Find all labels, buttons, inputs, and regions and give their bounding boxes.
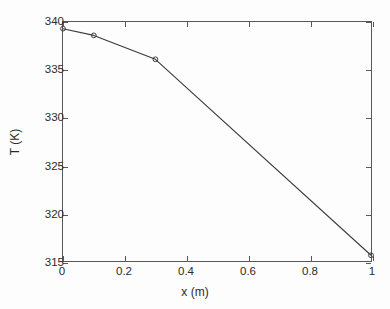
figure-canvas: 00.20.40.60.81 315320325330335340 x (m) … <box>0 0 390 309</box>
y-axis-tick-label: 330 <box>45 111 64 124</box>
y-axis-tick <box>366 70 371 71</box>
x-axis-tick <box>311 22 312 27</box>
y-axis-label: T (K) <box>8 128 22 154</box>
series-line-T <box>63 29 371 256</box>
x-axis-tick <box>373 22 374 27</box>
y-axis-tick <box>366 263 371 264</box>
x-axis-tick <box>373 256 374 261</box>
x-axis-tick <box>187 22 188 27</box>
x-axis-tick-label: 0.8 <box>302 265 318 278</box>
x-axis-tick-label: 0.2 <box>116 265 132 278</box>
x-axis-tick <box>249 256 250 261</box>
y-axis-tick-label: 325 <box>45 159 64 172</box>
x-axis-tick <box>125 22 126 27</box>
y-axis-tick-label: 340 <box>45 15 64 28</box>
y-axis-tick <box>366 118 371 119</box>
x-axis-tick-label: 1 <box>369 265 375 278</box>
x-axis-tick <box>125 256 126 261</box>
x-axis-tick <box>249 22 250 27</box>
y-axis-label-wrapper: T (K) <box>0 0 30 283</box>
data-series-svg <box>63 22 371 261</box>
y-axis-tick-label: 320 <box>45 207 64 220</box>
y-axis-tick <box>366 22 371 23</box>
y-axis-tick-label: 315 <box>45 256 64 269</box>
x-axis-tick <box>311 256 312 261</box>
plot-area <box>62 21 372 262</box>
y-axis-tick <box>366 167 371 168</box>
x-axis-tick-label: 0.4 <box>178 265 194 278</box>
x-axis-tick <box>187 256 188 261</box>
y-axis-tick-label: 335 <box>45 63 64 76</box>
x-axis-tick-label: 0.6 <box>240 265 256 278</box>
y-axis-tick <box>366 215 371 216</box>
series-markers-T <box>61 26 374 257</box>
x-axis-label: x (m) <box>0 285 390 299</box>
